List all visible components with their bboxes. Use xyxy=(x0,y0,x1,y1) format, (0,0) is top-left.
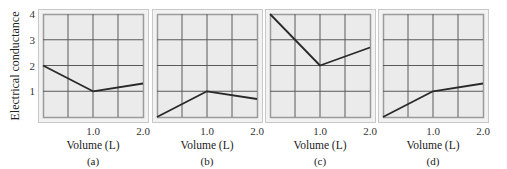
x-tick-label: 2.0 xyxy=(476,125,490,137)
y-tick-label: 3 xyxy=(30,34,36,46)
x-tick-label: 1.0 xyxy=(313,125,327,137)
x-axis-label: Volume (L) xyxy=(180,139,233,152)
x-axis-label: Volume (L) xyxy=(66,139,119,152)
panel-d: 1.02.0Volume (L)(d) xyxy=(379,10,491,169)
y-tick-label: 1 xyxy=(30,85,36,97)
x-tick-label: 2.0 xyxy=(363,125,377,137)
y-axis-label: Electrical conductance xyxy=(8,12,22,121)
panel-b: 1.02.0Volume (L)(b) xyxy=(153,10,265,169)
x-tick-label: 1.0 xyxy=(426,125,440,137)
panel-label: (b) xyxy=(201,155,214,168)
y-tick-label: 4 xyxy=(30,8,36,20)
x-tick-label: 2.0 xyxy=(136,125,150,137)
panel-label: (c) xyxy=(314,155,327,168)
x-tick-label: 2.0 xyxy=(250,125,264,137)
conductance-figure: Electrical conductance 1.02.01234Volume … xyxy=(0,0,507,168)
y-tick-label: 2 xyxy=(30,60,36,72)
x-tick-label: 1.0 xyxy=(200,125,214,137)
x-tick-label: 1.0 xyxy=(86,125,100,137)
panel-a: 1.02.01234Volume (L)(a) xyxy=(30,8,151,168)
panel-c: 1.02.0Volume (L)(c) xyxy=(266,10,378,169)
panel-label: (a) xyxy=(87,155,100,168)
x-axis-label: Volume (L) xyxy=(406,139,459,152)
panel-label: (d) xyxy=(427,155,440,168)
x-axis-label: Volume (L) xyxy=(293,139,346,152)
